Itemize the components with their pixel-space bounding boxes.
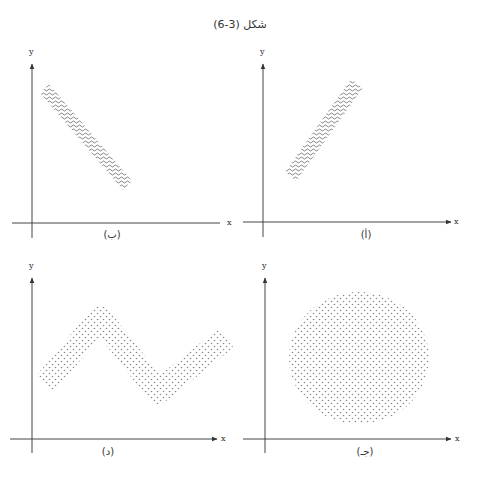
descending-band-shape <box>40 84 132 190</box>
x-axis-label: x <box>227 218 232 227</box>
x-axis-label: x <box>454 217 459 226</box>
circle-shape <box>289 292 429 424</box>
curved-band-shape <box>45 318 226 392</box>
figure-canvas: y x (ب) y x (أ) y x (د) y x (جـ) <box>0 0 480 480</box>
y-axis-label: y <box>261 261 267 270</box>
panel-label-d: (د) <box>102 446 114 457</box>
x-axis-label: x <box>455 434 460 443</box>
y-axis-label: y <box>28 47 34 56</box>
panel-label-c: (جـ) <box>357 446 374 457</box>
y-axis-label: y <box>259 47 265 56</box>
x-axis-label: x <box>221 434 226 443</box>
panel-a: y x (أ) <box>243 47 459 240</box>
ascending-band-shape <box>285 79 363 181</box>
y-axis-label: y <box>28 261 34 270</box>
panel-d: y x (د) <box>10 261 226 457</box>
panel-label-a: (أ) <box>361 228 372 240</box>
panel-label-b: (ب) <box>103 229 120 240</box>
panel-c: y x (جـ) <box>243 261 460 457</box>
panel-b: y x (ب) <box>12 47 232 240</box>
